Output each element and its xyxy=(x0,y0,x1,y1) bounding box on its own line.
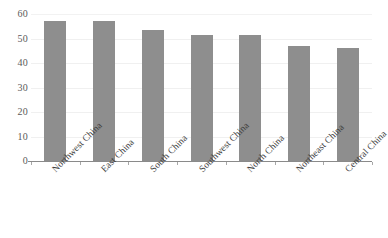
bar xyxy=(239,35,261,161)
x-axis-labels: Northwest ChinaEast ChinaSouth ChinaSout… xyxy=(0,161,376,238)
y-axis-tick-label: 40 xyxy=(4,58,28,68)
y-axis-tick-label: 20 xyxy=(4,107,28,117)
bar xyxy=(337,48,359,161)
bar xyxy=(191,35,213,161)
bar xyxy=(142,30,164,161)
bar xyxy=(93,21,115,161)
y-axis-tick-label: 30 xyxy=(4,83,28,93)
gridline xyxy=(31,14,372,15)
y-axis-tick-label: 60 xyxy=(4,9,28,19)
bar xyxy=(44,21,66,161)
y-axis-tick-label: 50 xyxy=(4,34,28,44)
bar xyxy=(288,46,310,161)
y-axis-tick-label: 10 xyxy=(4,132,28,142)
